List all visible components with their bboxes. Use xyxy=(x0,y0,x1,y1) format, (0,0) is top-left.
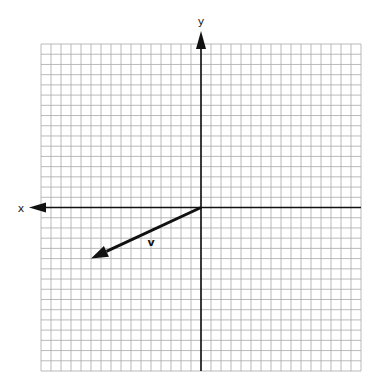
x-axis-arrow-icon xyxy=(29,203,46,213)
vectors: v xyxy=(91,208,201,259)
vector-v-label: v xyxy=(147,236,155,249)
axes: x y xyxy=(18,15,361,371)
y-axis-arrow-icon xyxy=(196,31,206,49)
y-axis-label: y xyxy=(198,15,205,28)
coordinate-plane: x y v xyxy=(0,0,379,392)
vector-v-arrowhead-icon xyxy=(91,246,109,259)
x-axis-label: x xyxy=(18,202,25,215)
